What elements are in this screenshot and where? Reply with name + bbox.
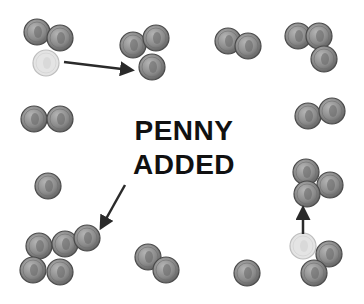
penny-icon xyxy=(139,54,165,80)
caption-line-2: ADDED xyxy=(118,148,250,182)
penny-diagram: PENNY ADDED xyxy=(0,0,364,304)
penny-icon xyxy=(35,173,61,199)
arrow-icon xyxy=(64,62,130,70)
penny-icon xyxy=(20,257,46,283)
penny-icon xyxy=(319,98,345,124)
penny-icon xyxy=(311,46,337,72)
penny-icon xyxy=(234,260,260,286)
penny-icon xyxy=(26,233,52,259)
penny-icon xyxy=(74,225,100,251)
added-penny-icon xyxy=(33,50,59,76)
arrow-icon xyxy=(102,185,125,226)
penny-icon xyxy=(21,106,47,132)
penny-icon xyxy=(47,25,73,51)
penny-icon xyxy=(143,25,169,51)
penny-icon xyxy=(47,259,73,285)
added-penny-icon xyxy=(290,233,316,259)
penny-icon xyxy=(153,257,179,283)
caption-line-1: PENNY xyxy=(118,114,250,148)
penny-icon xyxy=(295,103,321,129)
penny-icon xyxy=(120,32,146,58)
penny-icon xyxy=(47,106,73,132)
penny-icon xyxy=(317,172,343,198)
penny-icon xyxy=(301,260,327,286)
penny-icon xyxy=(306,23,332,49)
penny-icon xyxy=(235,33,261,59)
penny-icon xyxy=(294,181,320,207)
penny-icon xyxy=(24,19,50,45)
